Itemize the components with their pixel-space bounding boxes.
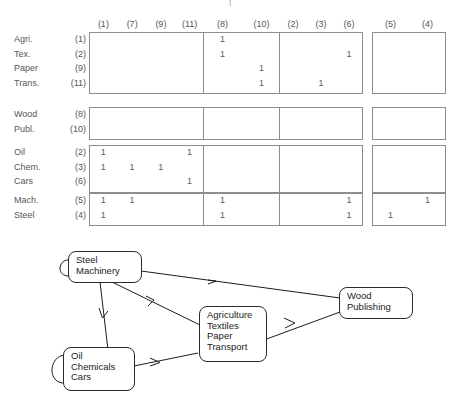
row-label-index: (1)	[66, 34, 86, 44]
node-agri-line-3: Transport	[207, 342, 260, 353]
block-flow-diagram: Steel Machinery Oil Chemicals Cars Agric…	[0, 240, 461, 400]
column-header-5: (5)	[377, 19, 405, 29]
matrix-block-1-1[interactable]	[203, 107, 281, 140]
matrix-entry: 1	[218, 49, 228, 59]
matrix-block-1-3[interactable]	[372, 107, 446, 140]
row-label-name: Trans.	[14, 78, 39, 88]
row-label-index: (2)	[66, 147, 86, 157]
row-label-name: Steel	[14, 210, 35, 220]
column-header-2: (2)	[279, 19, 307, 29]
row-label-index: (11)	[66, 78, 86, 88]
edge-steel-wood	[141, 271, 340, 298]
matrix-block-2-1[interactable]	[203, 145, 281, 193]
row-label-name: Oil	[14, 147, 25, 157]
matrix-entry: 1	[218, 34, 228, 44]
node-wood-line-0: Wood	[347, 291, 406, 302]
edge-steel-agri	[112, 282, 200, 325]
matrix-entry: 1	[127, 162, 137, 172]
row-label-index: (3)	[66, 162, 86, 172]
column-header-1: (1)	[89, 19, 117, 29]
incidence-matrix: | (1)(7)(9)(11)(8)(10)(2)(3)(6)(5)(4)Agr…	[0, 0, 461, 240]
matrix-block-0-0[interactable]	[89, 32, 204, 94]
matrix-entry: 1	[257, 63, 267, 73]
node-agri-line-0: Agriculture	[207, 310, 260, 321]
matrix-entry: 1	[185, 176, 195, 186]
node-wood-line-1: Publishing	[347, 302, 406, 313]
row-label-name: Mach.	[14, 195, 39, 205]
row-label-name: Cars	[14, 176, 33, 186]
row-label-name: Wood	[14, 109, 37, 119]
column-header-8: (8)	[209, 19, 237, 29]
matrix-entry: 1	[344, 210, 354, 220]
matrix-entry: 1	[98, 195, 108, 205]
row-label-name: Publ.	[14, 124, 35, 134]
matrix-block-1-2[interactable]	[279, 107, 363, 140]
matrix-block-2-2[interactable]	[279, 145, 363, 193]
node-steel-line-0: Steel	[76, 255, 135, 266]
matrix-entry: 1	[98, 162, 108, 172]
node-oil[interactable]: Oil Chemicals Cars	[63, 347, 135, 391]
matrix-block-0-3[interactable]	[372, 32, 446, 94]
column-header-3: (3)	[307, 19, 335, 29]
row-label-index: (5)	[66, 195, 86, 205]
edge-oil-agri	[134, 353, 198, 366]
row-label-name: Agri.	[14, 34, 33, 44]
node-agriculture[interactable]: Agriculture Textiles Paper Transport	[199, 306, 267, 362]
matrix-block-3-3[interactable]	[372, 193, 446, 226]
matrix-entry: 1	[185, 147, 195, 157]
matrix-entry: 1	[127, 195, 137, 205]
column-header-11: (11)	[176, 19, 204, 29]
matrix-entry: 1	[98, 147, 108, 157]
node-oil-line-0: Oil	[71, 351, 128, 362]
row-label-index: (8)	[66, 109, 86, 119]
row-label-index: (9)	[66, 63, 86, 73]
node-oil-line-2: Cars	[71, 372, 128, 383]
node-steel-line-1: Machinery	[76, 266, 135, 277]
column-header-9: (9)	[147, 19, 175, 29]
node-steel[interactable]: Steel Machinery	[68, 251, 142, 283]
node-agri-line-2: Paper	[207, 331, 260, 342]
column-header-6: (6)	[335, 19, 363, 29]
matrix-entry: 1	[386, 210, 396, 220]
matrix-block-0-1[interactable]	[203, 32, 281, 94]
matrix-entry: 1	[218, 195, 228, 205]
matrix-entry: 1	[156, 162, 166, 172]
matrix-entry: 1	[257, 78, 267, 88]
matrix-entry: 1	[344, 195, 354, 205]
matrix-entry: 1	[344, 49, 354, 59]
matrix-entry: 1	[98, 210, 108, 220]
matrix-block-3-1[interactable]	[203, 193, 281, 226]
matrix-block-1-0[interactable]	[89, 107, 204, 140]
matrix-entry: 1	[218, 210, 228, 220]
column-header-7: (7)	[118, 19, 146, 29]
row-label-index: (6)	[66, 176, 86, 186]
figure-root: | (1)(7)(9)(11)(8)(10)(2)(3)(6)(5)(4)Agr…	[0, 0, 461, 400]
row-label-index: (10)	[66, 124, 86, 134]
matrix-block-2-3[interactable]	[372, 145, 446, 193]
row-label-index: (2)	[66, 49, 86, 59]
node-wood[interactable]: Wood Publishing	[339, 287, 413, 319]
matrix-entry: 1	[316, 78, 326, 88]
row-label-index: (4)	[66, 210, 86, 220]
column-header-4: (4)	[414, 19, 442, 29]
stray-mark: |	[229, 0, 231, 6]
matrix-entry: 1	[423, 195, 433, 205]
row-label-name: Chem.	[14, 162, 41, 172]
column-header-10: (10)	[248, 19, 276, 29]
row-label-name: Paper	[14, 63, 38, 73]
row-label-name: Tex.	[14, 49, 31, 59]
